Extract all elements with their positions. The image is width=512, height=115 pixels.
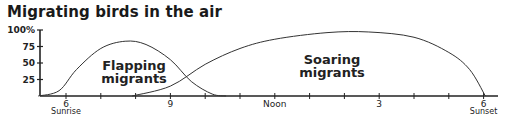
y-tick-label: 75 bbox=[22, 42, 35, 52]
x-tick-label: 3 bbox=[376, 99, 382, 109]
flapping-label-line2: migrants bbox=[101, 71, 167, 86]
y-tick-label: 100% bbox=[7, 25, 35, 35]
x-tick-sublabel: Sunset bbox=[470, 107, 497, 115]
soaring-label-line2: migrants bbox=[299, 65, 365, 80]
x-tick-sublabel: Sunrise bbox=[51, 107, 81, 115]
y-tick-label: 25 bbox=[22, 75, 35, 85]
chart-plot: 255075100% 6Sunrise9Noon36Sunset Flappin… bbox=[0, 0, 512, 115]
x-tick-label: 9 bbox=[168, 99, 174, 109]
x-tick-label: Noon bbox=[263, 99, 286, 109]
y-tick-label: 50 bbox=[22, 58, 35, 68]
y-ticks: 255075100% bbox=[7, 25, 43, 85]
